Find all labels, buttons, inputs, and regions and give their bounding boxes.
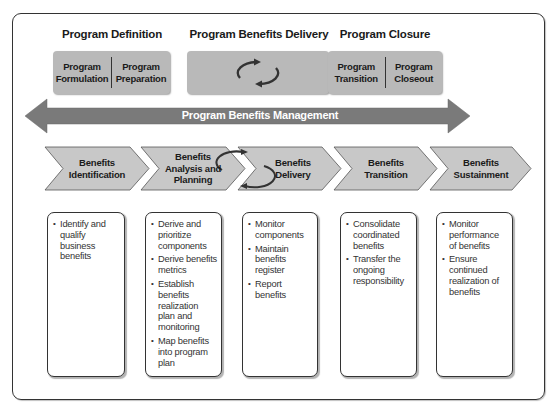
activity-item: Report benefits: [248, 279, 313, 301]
delivery-activities-box: Monitor components Maintain benefits reg…: [242, 212, 318, 377]
activity-item: Ensure continued realization of benefits: [442, 254, 508, 297]
analysis-planning-activities-box: Derive and prioritize components Derive …: [145, 212, 222, 377]
activity-item: Maintain benefits register: [248, 244, 313, 276]
stage-benefits-delivery: Benefits Delivery: [260, 147, 326, 190]
identification-activities-box: Identify and qualify business benefits: [47, 212, 125, 377]
activity-item: Map benefits into program plan: [151, 336, 217, 368]
activity-item: Establish benefits realization plan and …: [151, 279, 217, 333]
stage-benefits-transition: Benefits Transition: [350, 147, 422, 190]
activity-item: Consolidate coordinated benefits: [346, 219, 412, 251]
transition-activities-box: Consolidate coordinated benefits Transfe…: [340, 212, 417, 377]
activity-item: Identify and qualify business benefits: [53, 219, 120, 262]
activity-item: Transfer the ongoing responsibility: [346, 254, 412, 286]
activity-item: Monitor components: [248, 219, 313, 241]
stage-benefits-sustainment: Benefits Sustainment: [446, 147, 516, 190]
activity-item: Monitor performance of benefits: [442, 219, 508, 251]
stage-benefits-analysis-planning: Benefits Analysis and Planning: [156, 147, 230, 190]
stage-benefits-identification: Benefits Identification: [60, 147, 134, 190]
activity-item: Derive and prioritize components: [151, 219, 217, 251]
activity-item: Derive benefits metrics: [151, 254, 217, 276]
sustainment-activities-box: Monitor performance of benefits Ensure c…: [436, 212, 513, 377]
